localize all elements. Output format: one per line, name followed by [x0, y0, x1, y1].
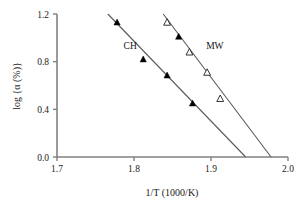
- x-tick-label: 2.0: [282, 164, 294, 174]
- chart-figure: 1.71.81.92.0 0.00.40.81.2 CHMW 1/T (1000…: [0, 0, 307, 207]
- series-label-ch: CH: [124, 41, 137, 51]
- y-axis-tick-labels: 0.00.40.81.2: [37, 10, 49, 163]
- data-markers-group: [114, 19, 224, 106]
- y-axis-title: log {α (%)}: [11, 62, 23, 110]
- x-tick-label: 1.7: [51, 164, 63, 174]
- y-tick-label: 0.8: [37, 57, 49, 67]
- axes-group: [57, 14, 288, 157]
- y-tick-label: 1.2: [37, 10, 49, 20]
- data-point-ch: [189, 100, 195, 106]
- x-tick-label: 1.9: [205, 164, 217, 174]
- x-axis-title: 1/T (1000/K): [146, 187, 199, 199]
- arrhenius-scatter-plot: 1.71.81.92.0 0.00.40.81.2 CHMW 1/T (1000…: [0, 0, 307, 207]
- fit-lines-group: [108, 14, 271, 157]
- y-tick-label: 0.4: [37, 105, 49, 115]
- y-tick-label: 0.0: [37, 153, 49, 163]
- fit-line-ch: [108, 14, 246, 157]
- data-point-mw: [217, 95, 224, 101]
- x-tick-label: 1.8: [128, 164, 140, 174]
- data-point-ch: [140, 56, 146, 62]
- series-label-mw: MW: [206, 41, 223, 51]
- data-point-ch: [176, 33, 182, 39]
- x-axis-tick-labels: 1.71.81.92.0: [51, 164, 294, 174]
